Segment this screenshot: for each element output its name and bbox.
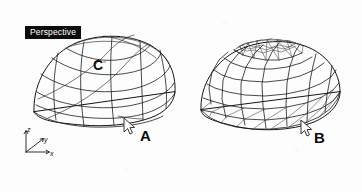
axis-label-z: z	[27, 126, 31, 133]
callout-label-b: B	[314, 130, 325, 145]
control-point-marker-icon: ▫	[103, 58, 105, 65]
axis-label-x: x	[50, 150, 54, 157]
callout-label-c: C▫	[93, 58, 106, 72]
axis-label-y: y	[44, 136, 48, 143]
cursor-a	[124, 118, 135, 134]
figure-canvas: Perspective C▫ A B z y x	[0, 0, 362, 192]
nurbs-surface-dome[interactable]	[34, 35, 175, 127]
polygon-mesh-dome[interactable]	[201, 39, 340, 130]
viewport-label[interactable]: Perspective	[25, 26, 81, 39]
callout-c-letter: C	[93, 57, 103, 73]
callout-label-a: A	[140, 128, 151, 143]
